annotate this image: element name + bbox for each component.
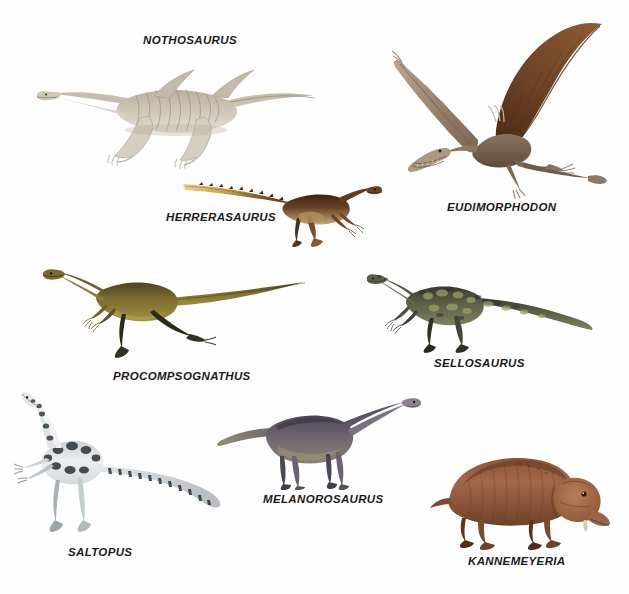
label-herrerasaurus: HERRERASAURUS	[166, 212, 276, 224]
label-procompsognathus: PROCOMPSOGNATHUS	[113, 371, 251, 383]
label-sellosaurus: SELLOSAURUS	[434, 358, 525, 370]
eudimorphodon-illustration	[392, 22, 616, 192]
procompsognathus-illustration	[42, 262, 310, 362]
specimen-procompsognathus	[42, 262, 310, 362]
nothosaurus-illustration	[36, 56, 318, 164]
label-nothosaurus: NOTHOSAURUS	[143, 35, 237, 47]
specimen-sellosaurus	[366, 268, 606, 354]
label-eudimorphodon: EUDIMORPHODON	[447, 202, 556, 214]
specimen-saltopus	[12, 392, 238, 540]
specimen-melanorosaurus	[216, 398, 428, 490]
saltopus-illustration	[12, 392, 238, 540]
label-kannemeyeria: KANNEMEYERIA	[468, 556, 566, 568]
label-melanorosaurus: MELANOROSAURUS	[263, 494, 384, 506]
label-saltopus: SALTOPUS	[68, 547, 132, 559]
illustration-plate: NOTHOSAURUS	[0, 0, 629, 594]
specimen-nothosaurus	[36, 56, 318, 164]
kannemeyeria-illustration	[428, 440, 612, 550]
sellosaurus-illustration	[366, 268, 606, 354]
specimen-eudimorphodon	[392, 22, 616, 192]
specimen-kannemeyeria	[428, 440, 612, 550]
melanorosaurus-illustration	[216, 398, 428, 490]
